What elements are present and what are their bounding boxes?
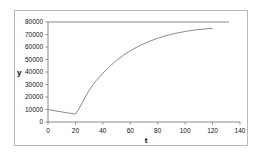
chart-plot-area: 0100002000030000400005000060000700008000… xyxy=(0,0,260,158)
y-axis-tick-labels: 0100002000030000400005000060000700008000… xyxy=(25,18,43,125)
population-curve xyxy=(48,29,213,115)
chart-screenshot: 0100002000030000400005000060000700008000… xyxy=(0,0,260,158)
x-tick-label: 60 xyxy=(127,127,135,134)
x-tick-label: 20 xyxy=(72,127,80,134)
x-tick-label: 80 xyxy=(154,127,162,134)
x-axis-tick-labels: 020406080100120140 xyxy=(46,127,246,134)
x-tick-label: 120 xyxy=(207,127,218,134)
y-tick-label: 70000 xyxy=(25,31,43,38)
y-tick-label: 50000 xyxy=(25,56,43,63)
x-tick-label: 140 xyxy=(235,127,246,134)
y-tick-label: 20000 xyxy=(25,93,43,100)
x-tick-label: 100 xyxy=(180,127,191,134)
x-tick-label: 0 xyxy=(46,127,50,134)
y-tick-label: 0 xyxy=(39,118,43,125)
y-axis-title: y xyxy=(17,68,22,77)
chart-svg: 0100002000030000400005000060000700008000… xyxy=(0,0,260,158)
y-tick-label: 80000 xyxy=(25,18,43,25)
y-tick-label: 60000 xyxy=(25,43,43,50)
y-tick-label: 40000 xyxy=(25,68,43,75)
x-tick-label: 40 xyxy=(99,127,107,134)
x-axis-title: t xyxy=(145,136,148,145)
y-tick-label: 10000 xyxy=(25,106,43,113)
y-tick-label: 30000 xyxy=(25,81,43,88)
